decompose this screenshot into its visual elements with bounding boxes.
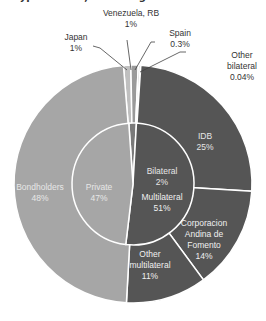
label-venezuela: Venezuela, RB1% — [103, 8, 160, 29]
label-other-bilateral: Otherbilateral0.04% — [227, 50, 257, 82]
label-idb: IDB25% — [196, 131, 213, 152]
label-japan: Japan1% — [64, 32, 87, 53]
label-spain: Spain0.3% — [169, 28, 191, 49]
nested-pie-chart: Bondholders48%Private47%Bilateral2%Multi… — [0, 0, 266, 321]
